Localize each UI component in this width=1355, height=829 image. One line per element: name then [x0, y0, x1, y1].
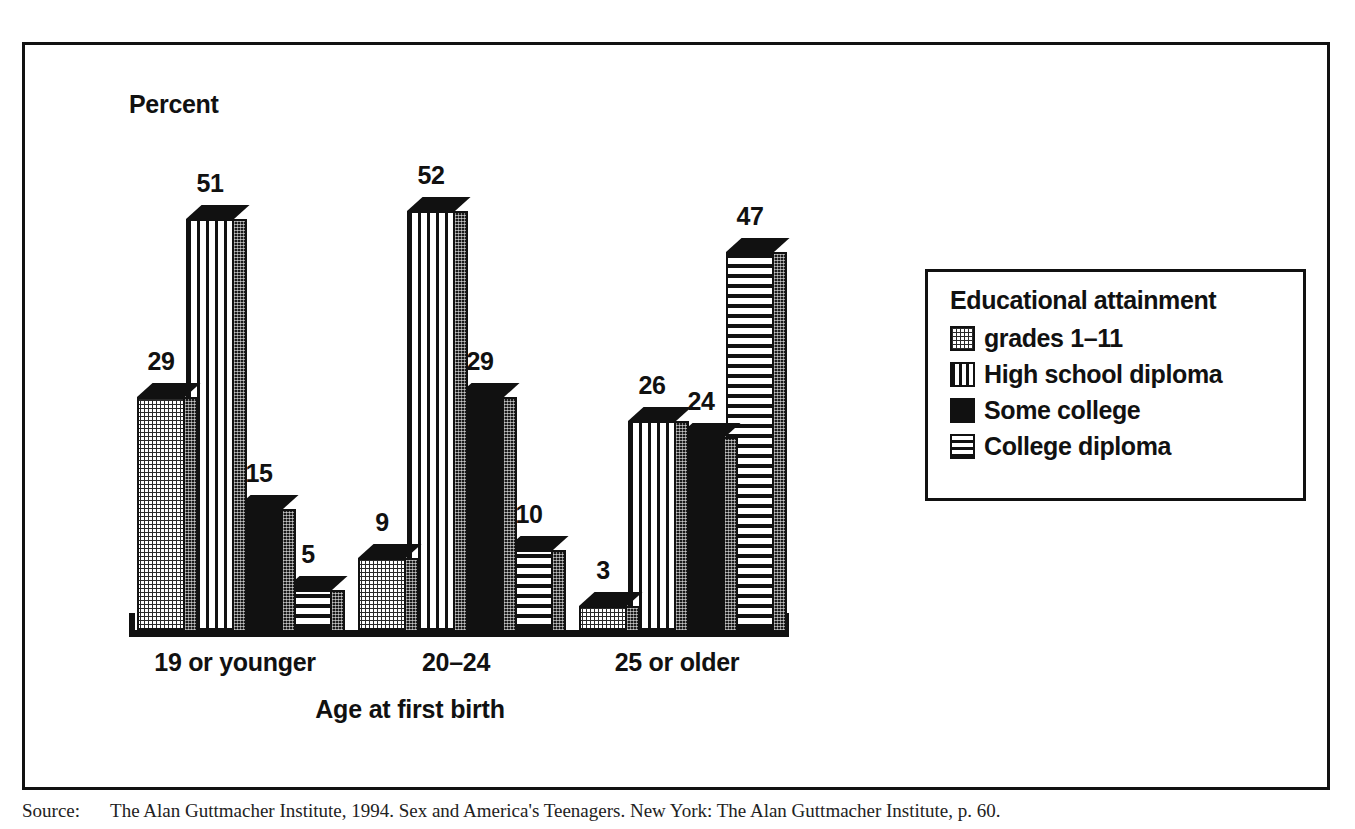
legend-item-2: High school diploma: [950, 360, 1303, 389]
y-axis-label: Percent: [129, 90, 219, 119]
bar-top-3d: [407, 197, 455, 211]
bar-value-label: 24: [666, 387, 736, 416]
bar-top-3d: [579, 592, 627, 606]
legend-swatch-icon: [950, 434, 975, 459]
bar-value-label: 10: [494, 500, 564, 529]
x-axis-category-label: 19 or younger: [107, 648, 363, 677]
chart-legend: Educational attainment grades 1–11High s…: [925, 269, 1306, 501]
bar-face: [137, 397, 185, 630]
bar-value-label: 9: [347, 508, 417, 537]
bar-side-3d: [455, 211, 468, 630]
figure-frame: Percent 295115595229103262447 19 or youn…: [22, 42, 1330, 790]
legend-item-1: grades 1–11: [950, 324, 1303, 353]
bar-face: [358, 558, 406, 630]
bar-side-3d: [406, 558, 419, 630]
bar-value-label: 29: [445, 347, 515, 376]
bar-face: [579, 606, 627, 630]
bar-side-3d: [332, 590, 345, 630]
bar-value-label: 29: [126, 347, 196, 376]
legend-item-label: Some college: [984, 396, 1140, 425]
legend-swatch-icon: [950, 398, 975, 423]
legend-swatch-icon: [950, 362, 975, 387]
bar-value-label: 3: [568, 556, 638, 585]
bar-side-3d: [553, 550, 566, 631]
bar-chart-plot: Percent 295115595229103262447 19 or youn…: [25, 45, 1327, 787]
bar-side-3d: [774, 252, 787, 630]
legend-item-label: College diploma: [984, 432, 1171, 461]
x-axis-title: Age at first birth: [25, 695, 795, 724]
bar-20–24-series1: [358, 558, 406, 630]
bar-top-3d: [358, 544, 406, 558]
bar-value-label: 51: [175, 169, 245, 198]
x-axis-category-label: 25 or older: [549, 648, 805, 677]
bar-value-label: 47: [715, 202, 785, 231]
x-axis-baseline: [129, 630, 789, 637]
bar-side-3d: [627, 606, 640, 630]
bar-side-3d: [676, 421, 689, 630]
axis-tick-left: [129, 613, 135, 637]
bar-top-3d: [726, 238, 774, 252]
bar-19-or-younger-series1: [137, 397, 185, 630]
bar-value-label: 52: [396, 161, 466, 190]
source-caption: Source:The Alan Guttmacher Institute, 19…: [22, 800, 1312, 822]
bar-side-3d: [185, 397, 198, 630]
source-text: The Alan Guttmacher Institute, 1994. Sex…: [110, 800, 1001, 821]
bar-side-3d: [725, 437, 738, 630]
legend-title: Educational attainment: [950, 286, 1303, 315]
legend-item-4: College diploma: [950, 432, 1303, 461]
legend-rows: grades 1–11High school diplomaSome colle…: [950, 324, 1303, 461]
bar-25-or-older-series1: [579, 606, 627, 630]
legend-swatch-icon: [950, 326, 975, 351]
bar-top-3d: [137, 383, 185, 397]
bar-side-3d: [283, 509, 296, 630]
source-label: Source:: [22, 800, 80, 821]
x-axis-category-label: 20–24: [328, 648, 584, 677]
legend-item-label: grades 1–11: [984, 324, 1123, 353]
bar-value-label: 5: [273, 540, 343, 569]
legend-item-3: Some college: [950, 396, 1303, 425]
bar-side-3d: [234, 219, 247, 630]
bar-top-3d: [186, 205, 234, 219]
bar-value-label: 15: [224, 459, 294, 488]
legend-item-label: High school diploma: [984, 360, 1222, 389]
